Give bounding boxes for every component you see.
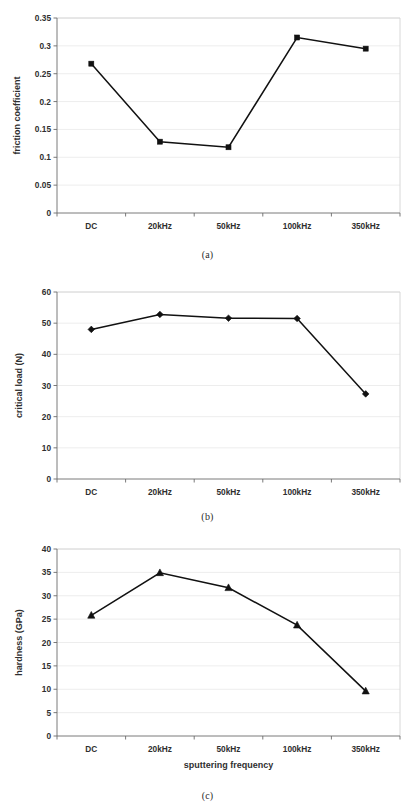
x-category-label-3: 100kHz: [283, 221, 312, 231]
y-tick-label-0: 0: [46, 474, 51, 484]
figure-a: 00.050.10.150.20.250.30.35DC20kHz50kHz10…: [0, 0, 415, 270]
chart-c: 0510152025303540DC20kHz50kHz100kHz350kHz…: [0, 535, 415, 775]
data-point-0: [89, 61, 94, 66]
y-tick-label-7: 35: [42, 567, 52, 577]
y-axis-title: hardness (GPa): [14, 609, 24, 676]
x-category-label-1: 20kHz: [148, 221, 172, 231]
x-category-label-2: 50kHz: [217, 221, 241, 231]
data-point-0: [88, 326, 95, 333]
y-tick-label-1: 0.05: [35, 180, 52, 190]
y-tick-label-2: 20: [42, 412, 52, 422]
figure-b: 0102030405060DC20kHz50kHz100kHz350kHzcri…: [0, 268, 415, 535]
data-point-2: [225, 315, 232, 322]
chart-c-canvas: 0510152025303540DC20kHz50kHz100kHz350kHz…: [0, 535, 415, 780]
figure-page: 00.050.10.150.20.250.30.35DC20kHz50kHz10…: [0, 0, 415, 804]
data-point-4: [363, 46, 368, 51]
x-category-label-1: 20kHz: [148, 744, 172, 754]
y-tick-label-1: 10: [42, 443, 52, 453]
chart-b-canvas: 0102030405060DC20kHz50kHz100kHz350kHzcri…: [0, 268, 415, 496]
x-category-label-2: 50kHz: [217, 487, 241, 496]
y-tick-label-4: 20: [42, 638, 52, 648]
y-tick-label-4: 0.2: [39, 97, 51, 107]
figure-c-caption: (c): [0, 790, 415, 801]
x-category-label-4: 350kHz: [351, 221, 380, 231]
y-tick-label-6: 60: [42, 287, 52, 297]
chart-b: 0102030405060DC20kHz50kHz100kHz350kHzcri…: [0, 268, 415, 493]
y-tick-label-1: 5: [46, 708, 51, 718]
x-axis-title: sputtering frequency: [184, 760, 274, 770]
x-category-label-4: 350kHz: [351, 744, 380, 754]
y-tick-label-5: 0.25: [35, 69, 52, 79]
x-category-label-3: 100kHz: [283, 487, 312, 496]
y-tick-label-2: 10: [42, 684, 52, 694]
figure-c: 0510152025303540DC20kHz50kHz100kHz350kHz…: [0, 535, 415, 804]
x-category-label-0: DC: [85, 221, 97, 231]
y-tick-label-3: 0.15: [35, 124, 52, 134]
x-category-label-2: 50kHz: [217, 744, 241, 754]
data-point-1: [157, 139, 162, 144]
x-category-label-3: 100kHz: [283, 744, 312, 754]
x-category-label-0: DC: [85, 487, 97, 496]
y-tick-label-8: 40: [42, 544, 52, 554]
y-axis-title: critical load (N): [14, 353, 24, 418]
chart-a-canvas: 00.050.10.150.20.250.30.35DC20kHz50kHz10…: [0, 0, 415, 235]
data-point-2: [226, 145, 231, 150]
y-tick-label-0: 0: [46, 208, 51, 218]
y-tick-label-6: 30: [42, 591, 52, 601]
x-category-label-4: 350kHz: [351, 487, 380, 496]
y-tick-label-3: 15: [42, 661, 52, 671]
y-axis-title: friction coefficient: [12, 76, 22, 154]
y-tick-label-0: 0: [46, 731, 51, 741]
x-category-label-1: 20kHz: [148, 487, 172, 496]
y-tick-label-5: 25: [42, 614, 52, 624]
y-tick-label-4: 40: [42, 349, 52, 359]
data-point-0: [88, 611, 95, 618]
y-tick-label-2: 0.1: [39, 152, 51, 162]
y-tick-label-7: 0.35: [35, 13, 52, 23]
chart-a: 00.050.10.150.20.250.30.35DC20kHz50kHz10…: [0, 0, 415, 235]
y-tick-label-5: 50: [42, 318, 52, 328]
y-tick-label-3: 30: [42, 381, 52, 391]
series-line: [91, 38, 365, 148]
figure-a-caption: (a): [0, 249, 415, 260]
x-category-label-0: DC: [85, 744, 97, 754]
data-point-1: [157, 311, 164, 318]
figure-b-caption: (b): [0, 511, 415, 522]
data-point-3: [295, 35, 300, 40]
y-tick-label-6: 0.3: [39, 41, 51, 51]
